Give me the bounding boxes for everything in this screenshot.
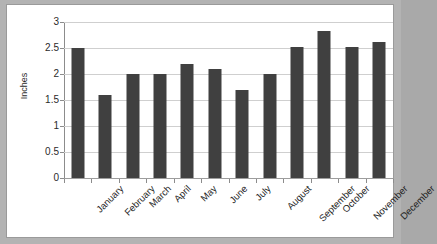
x-tick-label: January: [94, 183, 126, 215]
bar[interactable]: [126, 74, 139, 178]
x-tick-mark: [256, 179, 257, 183]
y-tick-label: 0: [19, 173, 59, 183]
x-tick-mark: [338, 179, 339, 183]
x-tick-mark: [64, 179, 65, 183]
chart-canvas: Inches 00.511.522.53 JanuaryFebruaryMarc…: [6, 4, 394, 238]
bar-slot: [201, 22, 228, 178]
x-tick-mark: [311, 179, 312, 183]
y-tick-label: 2: [19, 69, 59, 79]
bar-slot: [256, 22, 283, 178]
y-tick-mark: [60, 100, 64, 101]
bar-slot: [174, 22, 201, 178]
x-tick-mark: [201, 179, 202, 183]
bar-series: [64, 22, 393, 178]
bar-slot: [64, 22, 91, 178]
x-tick-mark: [119, 179, 120, 183]
x-tick-label: April: [172, 183, 193, 204]
x-tick-mark: [366, 179, 367, 183]
bar[interactable]: [99, 95, 112, 178]
bar[interactable]: [208, 69, 221, 178]
bar[interactable]: [236, 90, 249, 178]
y-tick-mark: [60, 74, 64, 75]
bar[interactable]: [181, 64, 194, 178]
x-tick-mark: [393, 179, 394, 183]
bar[interactable]: [318, 31, 331, 178]
bar-slot: [283, 22, 310, 178]
y-tick-label: 1: [19, 121, 59, 131]
y-axis-tick-labels: 00.511.522.53: [15, 5, 59, 205]
bar-slot: [91, 22, 118, 178]
bar[interactable]: [71, 48, 84, 178]
y-tick-label: 3: [19, 17, 59, 27]
bar-slot: [146, 22, 173, 178]
x-tick-label: August: [284, 183, 313, 212]
bar-slot: [338, 22, 365, 178]
x-tick-label: July: [253, 183, 273, 203]
bar[interactable]: [291, 47, 304, 178]
plot-area: [64, 22, 393, 178]
x-tick-mark: [146, 179, 147, 183]
bar-slot: [366, 22, 393, 178]
x-axis-tick-labels: JanuaryFebruaryMarchAprilMayJuneJulyAugu…: [64, 183, 404, 243]
y-tick-label: 1.5: [19, 95, 59, 105]
x-tick-mark: [283, 179, 284, 183]
bar[interactable]: [263, 74, 276, 178]
y-tick-label: 2.5: [19, 43, 59, 53]
bar-slot: [229, 22, 256, 178]
bar[interactable]: [345, 47, 358, 178]
bar-slot: [119, 22, 146, 178]
bar[interactable]: [373, 42, 386, 178]
x-tick-label: June: [227, 183, 249, 205]
bar[interactable]: [153, 74, 166, 178]
y-tick-mark: [60, 152, 64, 153]
y-tick-mark: [60, 22, 64, 23]
y-tick-mark: [60, 48, 64, 49]
x-tick-mark: [91, 179, 92, 183]
y-tick-mark: [60, 126, 64, 127]
x-tick-label: May: [199, 183, 219, 203]
x-tick-mark: [174, 179, 175, 183]
y-tick-label: 0.5: [19, 147, 59, 157]
bar-slot: [311, 22, 338, 178]
x-tick-mark: [229, 179, 230, 183]
